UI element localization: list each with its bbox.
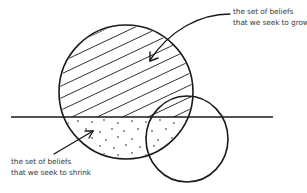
label-shrink: the set of beliefs that we seek to shrin… bbox=[11, 157, 91, 178]
label-grow: the set of beliefs that we seek to grow bbox=[233, 7, 307, 28]
label-grow-line2: that we seek to grow bbox=[233, 18, 307, 29]
label-grow-line1: the set of beliefs bbox=[233, 7, 307, 18]
arrow-grow-icon bbox=[150, 14, 230, 61]
label-shrink-line1: the set of beliefs bbox=[11, 157, 91, 168]
small-circle bbox=[146, 96, 228, 182]
label-shrink-line2: that we seek to shrink bbox=[11, 168, 91, 179]
dotted-region-shrink bbox=[67, 119, 187, 156]
